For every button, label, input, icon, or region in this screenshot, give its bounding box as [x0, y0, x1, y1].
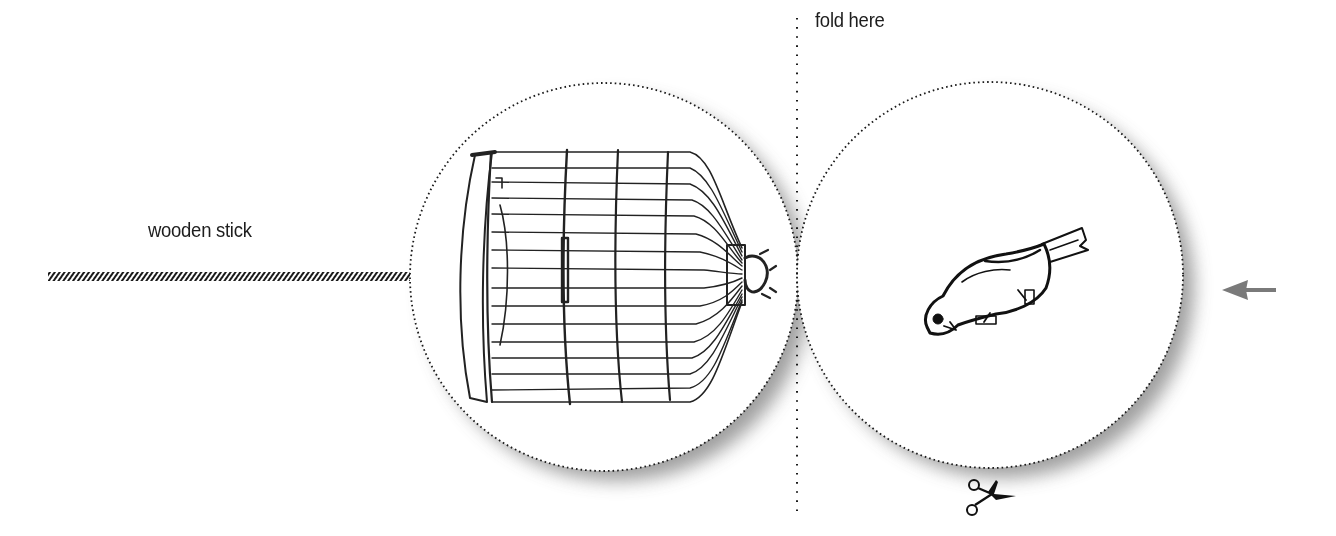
wooden-stick-label: wooden stick — [148, 218, 252, 242]
wooden-stick — [48, 272, 410, 281]
arrow-left-icon — [1222, 280, 1276, 300]
thaumatrope-diagram: fold here wooden stick — [0, 0, 1336, 536]
fold-here-label: fold here — [815, 8, 885, 32]
right-disc — [797, 82, 1183, 468]
left-disc — [410, 83, 798, 471]
diagram-graphics — [0, 0, 1336, 536]
scissors-icon — [967, 480, 1016, 515]
